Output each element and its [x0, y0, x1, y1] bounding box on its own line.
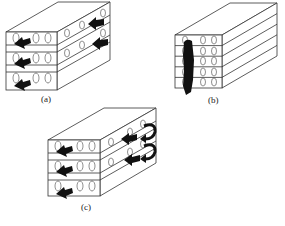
panel-a-label: (a)	[41, 94, 51, 104]
panel-b-block	[175, 3, 277, 95]
diagram-canvas	[0, 0, 285, 226]
panel-c-label: (c)	[81, 202, 91, 212]
panel-c-block	[48, 108, 156, 199]
panel-b-label: (b)	[208, 95, 219, 105]
panel-a-block	[6, 2, 110, 91]
